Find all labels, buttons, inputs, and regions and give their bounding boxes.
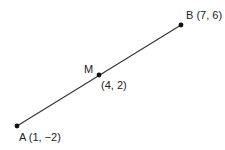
point-b-label: B (7, 6) bbox=[186, 10, 222, 21]
point-m-coords: (4, 2) bbox=[101, 80, 127, 91]
point-m bbox=[97, 73, 102, 78]
segment-diagram bbox=[0, 0, 225, 150]
point-a-label: A (1, −2) bbox=[19, 132, 61, 143]
point-a bbox=[15, 124, 20, 129]
point-b bbox=[179, 23, 184, 28]
point-m-label: M bbox=[84, 64, 93, 75]
